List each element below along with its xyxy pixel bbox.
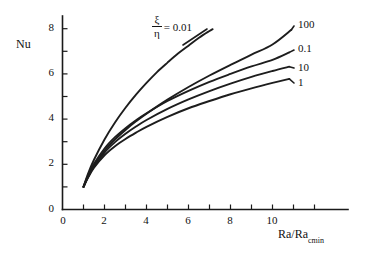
curve-label-10: 10 bbox=[298, 62, 309, 73]
leader-line-100 bbox=[291, 26, 294, 30]
curve-label-100: 100 bbox=[298, 19, 315, 30]
x-tick-label-8: 8 bbox=[222, 215, 238, 226]
curve-label-0-1: 0.1 bbox=[298, 43, 312, 54]
curve-0-1 bbox=[84, 52, 290, 186]
x-tick-label-4: 4 bbox=[138, 215, 154, 226]
x-axis-title-main: Ra/Ra bbox=[278, 227, 308, 241]
data-curves bbox=[84, 29, 292, 187]
curve-0-01 bbox=[84, 29, 213, 187]
x-tick-label-6: 6 bbox=[180, 215, 196, 226]
leader-line-1 bbox=[289, 79, 294, 83]
leader-line-0-1 bbox=[289, 50, 294, 52]
xi-over-eta-fraction: ξ η bbox=[152, 14, 162, 39]
parameter-annotation: ξ η = 0.01 bbox=[152, 14, 192, 39]
label-leader-lines bbox=[183, 26, 294, 83]
y-tick-label-8: 8 bbox=[40, 22, 54, 33]
x-axis-title-subscript: cmin bbox=[308, 236, 324, 245]
x-axis-title: Ra/Racmin bbox=[278, 228, 324, 243]
x-tick-label-2: 2 bbox=[96, 215, 112, 226]
y-tick-label-6: 6 bbox=[40, 67, 54, 78]
y-tick-label-0: 0 bbox=[40, 203, 54, 214]
y-tick-label-4: 4 bbox=[40, 112, 54, 123]
parameter-value: = 0.01 bbox=[164, 21, 192, 33]
y-tick-label-2: 2 bbox=[40, 157, 54, 168]
xi-symbol: ξ bbox=[152, 14, 161, 26]
y-axis-title: Nu bbox=[16, 38, 31, 50]
curve-10 bbox=[84, 67, 290, 187]
leader-line-10 bbox=[289, 67, 294, 68]
chart-figure: 8 6 4 2 0 0 2 4 6 8 10 Nu Ra/Racmin ξ η … bbox=[0, 0, 376, 256]
curve-label-1: 1 bbox=[298, 77, 304, 88]
eta-symbol: η bbox=[152, 27, 162, 39]
x-tick-label-10: 10 bbox=[264, 215, 280, 226]
curve-1 bbox=[84, 79, 290, 187]
x-tick-label-0: 0 bbox=[55, 215, 71, 226]
